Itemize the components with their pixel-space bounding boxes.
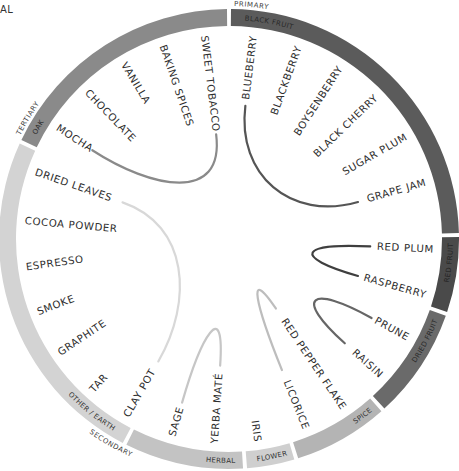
descriptor-label: BLACKBERRY xyxy=(269,44,304,116)
descriptor-label: CHOCOLATE xyxy=(83,87,138,144)
chord-link xyxy=(257,290,282,370)
descriptor-label: CLAY POT xyxy=(121,367,158,419)
descriptor-labels: BLUEBERRYBLACKBERRYBOYSENBERRYBLACK CHER… xyxy=(24,35,434,445)
descriptor-label: BLUEBERRY xyxy=(240,35,259,101)
descriptor-label: SWEET TOBACCO xyxy=(199,35,222,133)
tier-labels: PRIMARYTERTIARYSECONDARY xyxy=(9,0,299,466)
segment-label-herbal: HERBAL xyxy=(205,456,235,465)
chord-link xyxy=(92,134,217,182)
descriptor-label: IRIS xyxy=(250,419,264,442)
descriptor-label: COCOA POWDER xyxy=(24,215,118,234)
descriptor-label: SAGE xyxy=(167,405,186,437)
chord-link xyxy=(312,246,370,276)
descriptor-label: YERBA MATÉ xyxy=(208,373,225,445)
chord-links xyxy=(92,106,371,403)
descriptor-label: RASPBERRY xyxy=(362,272,427,300)
descriptor-label: TAR xyxy=(87,372,110,396)
descriptor-label: LICORICE xyxy=(282,378,312,431)
descriptor-label: SUGAR PLUM xyxy=(341,131,409,177)
segment-label-other_earth: OTHER / EARTH xyxy=(67,391,117,433)
descriptor-label: BAKING SPICES xyxy=(158,43,196,128)
descriptor-label: DRIED LEAVES xyxy=(34,167,114,204)
descriptor-label: GRAPE JAM xyxy=(365,177,427,204)
chord-link xyxy=(123,202,180,361)
descriptor-label: PRUNE xyxy=(373,315,411,343)
descriptor-label: GRAPHITE xyxy=(56,317,108,357)
flavor-wheel: BLACK FRUITRED FRUITDRIED FRUITSPICEFLOW… xyxy=(0,0,459,471)
descriptor-label: SMOKE xyxy=(35,293,76,317)
descriptor-label: ESPRESSO xyxy=(25,253,84,272)
descriptor-label: RAISIN xyxy=(350,347,385,380)
segment-ring: BLACK FRUITRED FRUITDRIED FRUITSPICEFLOW… xyxy=(0,9,459,469)
segment-other_earth xyxy=(0,144,131,443)
descriptor-label: MOCHA xyxy=(54,122,95,154)
chord-link xyxy=(314,299,371,344)
descriptor-label: VANILLA xyxy=(119,60,152,106)
descriptor-label: RED PLUM xyxy=(377,241,434,255)
